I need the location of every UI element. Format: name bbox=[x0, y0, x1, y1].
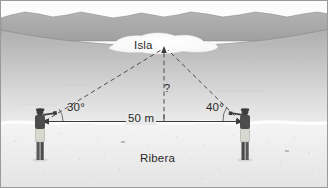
angle-label-right: 40° bbox=[206, 102, 224, 114]
island-label: Isla bbox=[134, 40, 153, 52]
baseline-length-label: 50 m bbox=[126, 113, 156, 125]
unknown-distance-label: ? bbox=[164, 83, 170, 94]
sky bbox=[1, 1, 328, 17]
angle-label-left: 30° bbox=[67, 102, 85, 114]
shore-label: Ribera bbox=[140, 153, 175, 165]
island-distance-figure: Isla 30° 40° 50 m ? Ribera bbox=[0, 0, 328, 188]
